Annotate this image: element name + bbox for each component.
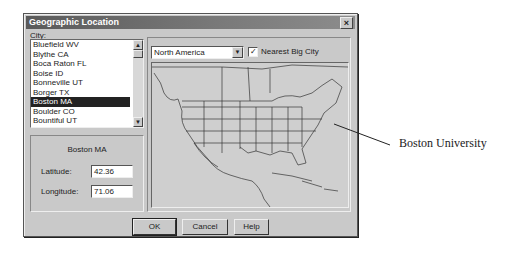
callout-line [0,0,508,253]
annotation-label: Boston University [399,136,487,151]
